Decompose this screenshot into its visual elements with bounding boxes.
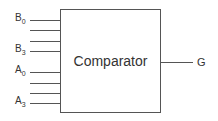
input-wire-b1 xyxy=(30,30,60,31)
comparator-label: Comparator xyxy=(61,53,160,69)
input-label-b0: B0 xyxy=(15,13,26,27)
input-wire-a0 xyxy=(30,72,60,73)
output-label-g: G xyxy=(197,57,206,67)
input-wire-b2 xyxy=(30,41,60,42)
input-label-a3: A3 xyxy=(15,96,26,110)
input-wire-a3 xyxy=(30,103,60,104)
input-wire-b3 xyxy=(30,51,60,52)
comparator-block: Comparator xyxy=(60,9,161,113)
input-label-b3: B3 xyxy=(15,44,26,58)
output-wire-g xyxy=(161,62,193,63)
input-wire-a2 xyxy=(30,93,60,94)
input-wire-b0 xyxy=(30,20,60,21)
input-label-a0: A0 xyxy=(15,65,26,79)
input-wire-a1 xyxy=(30,83,60,84)
